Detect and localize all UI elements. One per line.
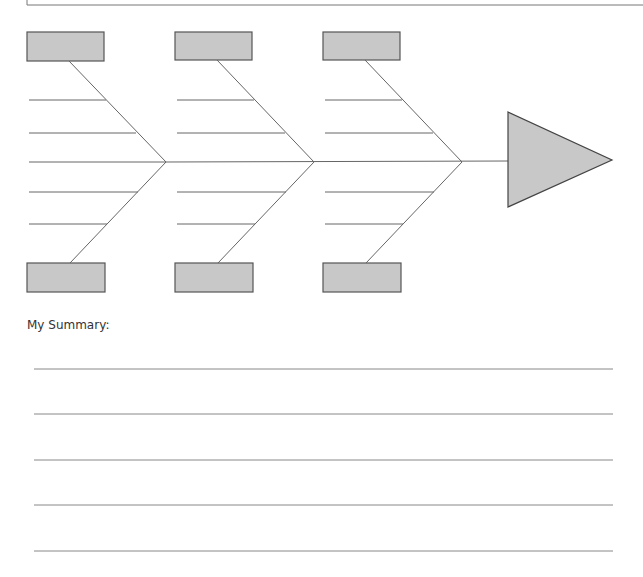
section-2-top-bone <box>217 60 314 162</box>
section-3-bottom-box[interactable] <box>323 263 401 292</box>
summary-lines <box>34 369 613 551</box>
section-1-top-bone <box>69 61 166 162</box>
section-1-bottom-box[interactable] <box>27 263 105 292</box>
section-3-bottom-bone <box>366 162 462 263</box>
top-frame <box>27 0 643 5</box>
section-2-bottom-box[interactable] <box>175 263 253 292</box>
fish-head-triangle[interactable] <box>508 112 612 207</box>
section-1-top-box[interactable] <box>27 32 104 61</box>
section-3 <box>323 32 462 292</box>
section-1-bottom-bone <box>70 162 166 263</box>
section-3-top-box[interactable] <box>323 32 400 60</box>
fishbone-diagram <box>0 0 643 577</box>
summary-label: My Summary: <box>27 318 109 332</box>
section-1 <box>27 32 166 292</box>
section-2-top-box[interactable] <box>175 32 252 60</box>
spine <box>166 161 508 162</box>
section-3-top-bone <box>365 60 462 162</box>
section-2-bottom-bone <box>218 162 314 263</box>
